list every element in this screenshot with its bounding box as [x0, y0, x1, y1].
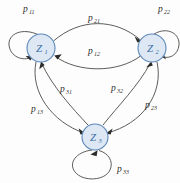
edge-label-p21: p 21 [87, 13, 100, 24]
edge-p21-path [54, 24, 141, 41]
node-z2-label: Z [147, 42, 154, 54]
edge-p23-path [107, 62, 158, 133]
node-z3-label: Z [90, 131, 97, 143]
node-z1[interactable]: Z 1 [27, 34, 55, 62]
edge-p23 [106, 62, 159, 135]
edge-label-p33-sub: 33 [122, 169, 129, 175]
edge-p21 [54, 24, 142, 43]
edge-p12-path [56, 56, 141, 69]
diagram-canvas: Z 1 Z 2 Z 3 p 11 p 22 p 33 p 21 [0, 0, 180, 183]
edge-label-p31-base: p [59, 84, 65, 94]
node-z2[interactable]: Z 2 [138, 34, 166, 62]
edge-p31-path [42, 63, 89, 125]
edge-label-p32-sub: 32 [116, 88, 123, 94]
edge-p13-path [35, 62, 84, 133]
edge-label-p22-base: p [157, 4, 163, 14]
edge-p33-arrowhead [90, 150, 97, 156]
markov-chain-diagram: Z 1 Z 2 Z 3 p 11 p 22 p 33 p 21 [0, 0, 180, 183]
edge-label-p22: p 22 [157, 4, 170, 15]
edge-label-p13-base: p [30, 104, 36, 114]
edge-p13 [35, 62, 85, 134]
edge-label-p11-sub: 11 [29, 9, 35, 15]
edge-label-p23-sub: 23 [151, 105, 157, 111]
node-z1-subscript: 1 [45, 48, 48, 55]
edge-label-p12-base: p [87, 46, 93, 56]
node-z3[interactable]: Z 3 [82, 124, 108, 150]
edge-label-p12: p 12 [87, 46, 100, 57]
edge-label-p12-sub: 12 [94, 51, 100, 57]
edge-label-p22-sub: 22 [164, 9, 170, 15]
edge-label-p31-sub: 31 [65, 89, 72, 95]
edge-p33-self-loop [72, 150, 111, 179]
edge-label-p32: p 32 [110, 83, 123, 94]
edge-label-p32-base: p [110, 83, 116, 93]
edge-label-p31: p 31 [59, 84, 72, 95]
edge-label-p11-base: p [22, 4, 28, 14]
edge-label-p11: p 11 [22, 4, 35, 15]
edge-label-p23-base: p [144, 100, 150, 110]
edge-label-p13-sub: 13 [37, 109, 43, 115]
edge-p32 [103, 62, 153, 125]
edge-label-p33: p 33 [116, 164, 129, 175]
edge-label-p21-base: p [87, 13, 93, 23]
edge-p32-path [103, 63, 151, 125]
node-z1-label: Z [36, 42, 43, 54]
edge-label-p21-sub: 21 [94, 18, 100, 24]
edge-label-p13: p 13 [30, 104, 43, 115]
edge-label-p33-base: p [116, 164, 122, 174]
